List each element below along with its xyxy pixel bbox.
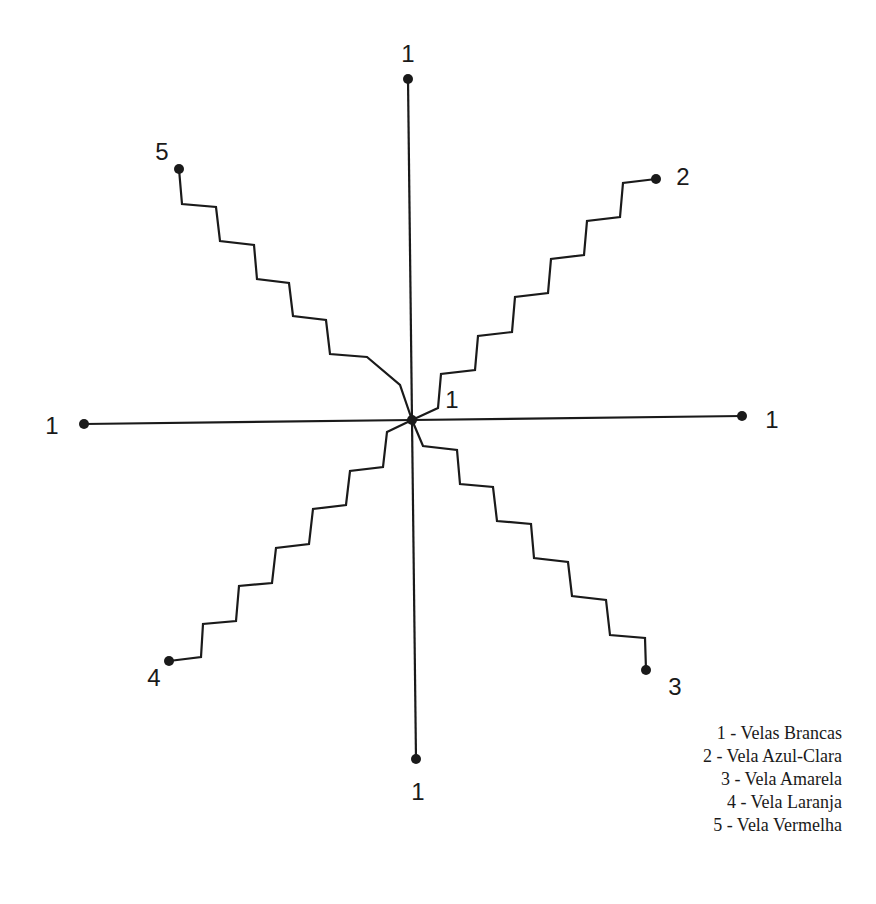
legend: 1 - Velas Brancas 2 - Vela Azul-Clara 3 … bbox=[703, 722, 842, 837]
label-west: 1 bbox=[45, 412, 58, 439]
endpoint-dot-line-3 bbox=[641, 665, 651, 675]
staircase-line-4 bbox=[169, 420, 412, 661]
legend-item-1: 1 - Velas Brancas bbox=[703, 722, 842, 745]
center-point bbox=[407, 415, 417, 425]
endpoint-dot-line-4 bbox=[164, 656, 174, 666]
label-south: 1 bbox=[411, 778, 424, 805]
straight-line-north bbox=[408, 79, 412, 420]
endpoint-dot-north bbox=[403, 74, 413, 84]
straight-line-south bbox=[412, 420, 416, 759]
staircase-line-5 bbox=[179, 169, 412, 420]
legend-item-3: 3 - Vela Amarela bbox=[703, 768, 842, 791]
legend-item-5: 5 - Vela Vermelha bbox=[703, 814, 842, 837]
label-north: 1 bbox=[401, 40, 414, 67]
straight-line-west bbox=[84, 420, 412, 424]
label-east: 1 bbox=[765, 406, 778, 433]
legend-item-2: 2 - Vela Azul-Clara bbox=[703, 745, 842, 768]
endpoint-dot-south bbox=[411, 754, 421, 764]
label-line-4: 4 bbox=[147, 664, 160, 691]
label-line-2: 2 bbox=[676, 163, 689, 190]
endpoint-dot-line-5 bbox=[174, 164, 184, 174]
endpoint-dot-west bbox=[79, 419, 89, 429]
endpoint-dot-line-2 bbox=[651, 174, 661, 184]
straight-line-east bbox=[412, 416, 742, 420]
endpoint-dot-east bbox=[737, 411, 747, 421]
label-line-5: 5 bbox=[155, 138, 168, 165]
center-label: 1 bbox=[445, 386, 458, 413]
staircase-line-3 bbox=[412, 420, 646, 670]
legend-item-4: 4 - Vela Laranja bbox=[703, 791, 842, 814]
label-line-3: 3 bbox=[668, 673, 681, 700]
staircase-line-2 bbox=[412, 179, 656, 420]
